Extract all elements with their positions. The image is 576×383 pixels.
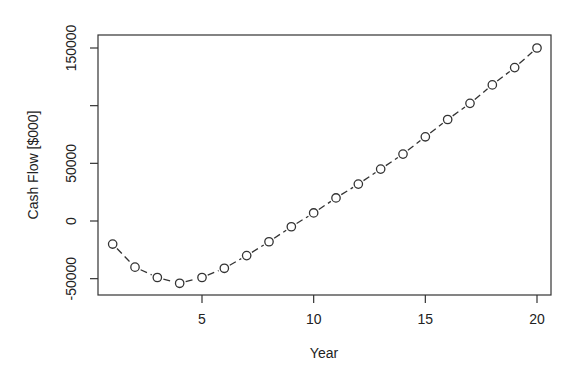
data-point — [533, 44, 541, 52]
y-axis: -50000050000150000 — [63, 24, 98, 300]
series-cash-flow — [108, 44, 541, 288]
data-point — [242, 251, 250, 259]
y-tick-label: -50000 — [63, 257, 79, 301]
data-point — [309, 209, 317, 217]
data-point — [332, 194, 340, 202]
data-point — [354, 180, 362, 188]
data-point — [198, 273, 206, 281]
series-segment — [297, 216, 309, 223]
data-point — [131, 263, 139, 271]
data-point — [466, 99, 474, 107]
data-point — [399, 150, 407, 158]
x-tick-label: 15 — [418, 311, 434, 327]
series-segment — [453, 107, 465, 116]
data-point — [153, 273, 161, 281]
series-segment — [430, 123, 443, 133]
plot-box — [98, 35, 551, 295]
y-tick-label: 0 — [63, 217, 79, 225]
data-point — [265, 238, 273, 246]
series-segment — [230, 259, 242, 266]
data-point — [108, 240, 116, 248]
data-point — [287, 223, 295, 231]
series-segment — [497, 71, 510, 81]
series-segment — [519, 52, 532, 63]
x-tick-label: 5 — [198, 311, 206, 327]
data-point — [421, 133, 429, 141]
series-segment — [475, 89, 488, 100]
y-tick-label: 50000 — [63, 144, 79, 183]
series-segment — [141, 270, 152, 275]
series-segment — [341, 187, 353, 194]
x-tick-label: 10 — [306, 311, 322, 327]
series-segment — [386, 158, 398, 166]
x-axis: 5101520 — [198, 295, 545, 327]
series-segment — [252, 245, 264, 252]
data-point — [510, 63, 518, 71]
y-axis-label: Cash Flow [$000] — [25, 111, 41, 220]
series-segment — [117, 249, 131, 263]
series-segment — [319, 201, 331, 209]
series-segment — [163, 279, 173, 282]
series-segment — [363, 173, 375, 181]
series-segment — [186, 279, 196, 282]
data-point — [175, 279, 183, 287]
cash-flow-chart: 5101520 -50000050000150000 Year Cash Flo… — [0, 0, 576, 383]
x-axis-label: Year — [310, 345, 339, 361]
data-point — [376, 165, 384, 173]
series-segment — [408, 141, 421, 151]
data-point — [488, 81, 496, 89]
x-tick-label: 20 — [529, 311, 545, 327]
data-point — [220, 264, 228, 272]
plot-frame — [98, 35, 551, 295]
series-segment — [274, 230, 286, 238]
series-segment — [208, 271, 219, 275]
y-tick-label: 150000 — [63, 24, 79, 71]
data-point — [443, 115, 451, 123]
